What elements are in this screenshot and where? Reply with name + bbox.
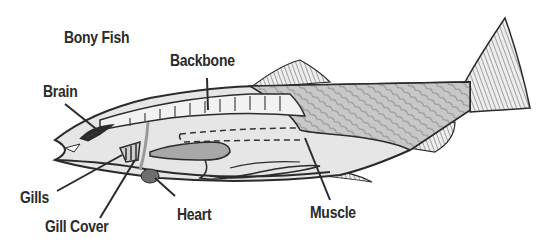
label-muscle: Muscle <box>310 203 356 223</box>
tail-fin <box>465 18 530 112</box>
diagram-title: Bony Fish <box>64 28 129 48</box>
label-gill-cover: Gill Cover <box>45 217 108 237</box>
label-gills: Gills <box>20 188 49 208</box>
dorsal-fin <box>250 60 330 88</box>
label-brain: Brain <box>43 82 77 102</box>
label-heart: Heart <box>177 205 211 225</box>
heart <box>141 169 159 183</box>
label-backbone: Backbone <box>170 51 235 71</box>
bony-fish-diagram: Bony Fish Backbone Brain Gills Gill Cove… <box>0 0 558 252</box>
